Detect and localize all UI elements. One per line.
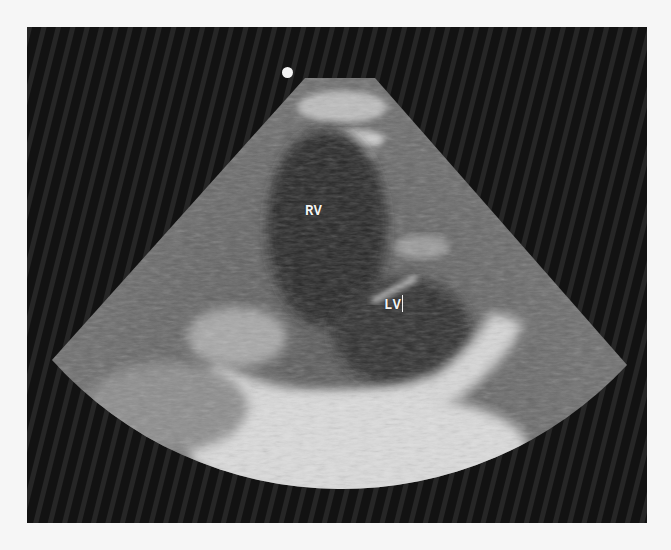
lv-label-group: LV xyxy=(384,295,403,312)
rv-label: RV xyxy=(305,204,322,218)
orientation-dot-icon xyxy=(282,67,293,78)
ultrasound-frame: RV LV xyxy=(27,27,647,523)
cursor-bar xyxy=(402,295,404,312)
lv-label: LV xyxy=(384,297,401,313)
ultrasound-sector xyxy=(27,27,647,523)
